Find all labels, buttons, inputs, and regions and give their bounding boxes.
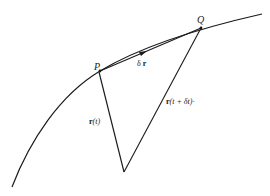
- curve: [12, 14, 262, 187]
- point-q-dot: [200, 27, 203, 30]
- delta-r-label: δr: [137, 59, 147, 68]
- r-t-dt-label: r(t + δt)·: [166, 97, 194, 106]
- r-t-label: r(t): [89, 117, 100, 126]
- point-q-label: Q: [197, 14, 205, 25]
- r-t-dt-argument: (t + δt)·: [170, 97, 195, 106]
- r-t-argument: (t): [93, 117, 101, 126]
- point-p-label: P: [93, 61, 100, 72]
- delta-r-vector-symbol: r: [143, 59, 147, 68]
- diagram-canvas: P Q δr r(t) r(t + δt)·: [0, 0, 270, 196]
- delta-r-arrowhead: [139, 51, 147, 56]
- r-t-vector: [99, 72, 124, 172]
- delta-r-chord: [100, 28, 201, 71]
- delta-symbol: δ: [137, 59, 141, 68]
